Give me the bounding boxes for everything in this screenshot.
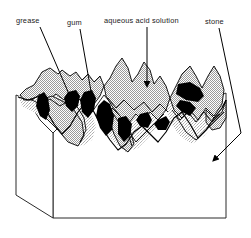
- diagram-figure: grease gum aqueous acid solution stone: [0, 0, 251, 238]
- label-stone: stone: [205, 17, 224, 26]
- label-aqueous-acid-solution: aqueous acid solution: [104, 16, 179, 25]
- label-texts: grease gum aqueous acid solution stone: [16, 16, 224, 27]
- label-gum: gum: [67, 18, 82, 27]
- cross-section-diagram: grease gum aqueous acid solution stone: [0, 0, 251, 238]
- label-grease: grease: [16, 16, 40, 25]
